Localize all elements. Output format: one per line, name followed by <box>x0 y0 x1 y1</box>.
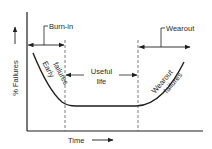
burn-in-label: Burn-in <box>49 22 73 31</box>
early-failures-label: Early failures <box>40 55 70 90</box>
x-axis-label: Time <box>68 136 84 145</box>
y-axis-label-group: % Failures <box>11 60 20 96</box>
life-label: life <box>97 77 107 86</box>
wearout-leader <box>161 28 165 47</box>
burn-in-leader <box>44 26 48 45</box>
y-axis-label: % Failures <box>11 60 20 96</box>
useful-life-span: Useful life <box>66 67 137 86</box>
burn-in-span: Burn-in <box>28 22 73 45</box>
wearout-label: Wearout <box>166 24 195 33</box>
wearout-span: Wearout <box>139 24 195 47</box>
bathtub-curve-diagram: Burn-in Wearout Useful life Early failur… <box>0 0 212 149</box>
useful-label: Useful <box>91 67 113 76</box>
